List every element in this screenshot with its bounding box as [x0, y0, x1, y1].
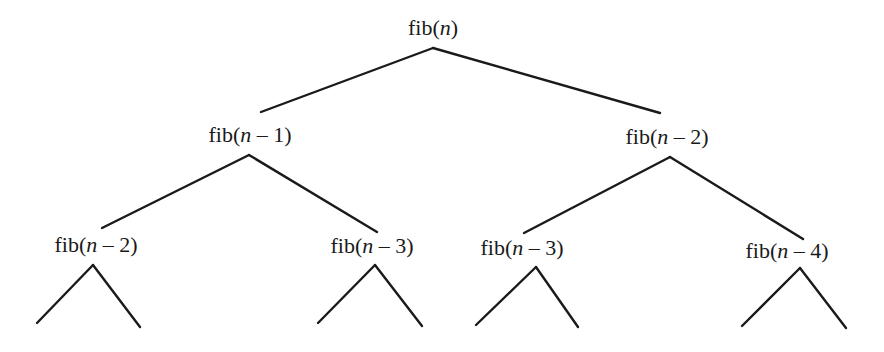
fibonacci-recursion-tree: fib(n) fib(n – 1) fib(n – 2) fib(n – 2) …: [0, 0, 884, 352]
subtree-stub-right: [375, 265, 422, 326]
node-rest: – 2): [97, 232, 137, 257]
node-fn: fib(: [54, 232, 86, 257]
node-var: n: [86, 232, 97, 257]
tree-edge: [261, 48, 433, 112]
node-rest: ): [451, 15, 458, 40]
node-fib-n-minus-3-right: fib(n – 3): [480, 237, 563, 259]
node-fn: fib(: [330, 233, 362, 258]
node-var: n: [440, 15, 451, 40]
node-fib-n-minus-2: fib(n – 2): [625, 126, 708, 148]
subtree-stub-left: [37, 265, 93, 323]
node-var: n: [777, 238, 788, 263]
subtree-stub-right: [93, 265, 140, 327]
tree-edge: [670, 157, 803, 239]
subtree-stub-right: [536, 267, 578, 327]
node-fib-n: fib(n): [408, 17, 458, 39]
node-fib-n-minus-1: fib(n – 1): [208, 124, 291, 146]
node-fib-n-minus-3-left: fib(n – 3): [330, 235, 413, 257]
node-var: n: [362, 233, 373, 258]
tree-edges: [0, 0, 884, 352]
tree-edge: [433, 48, 660, 113]
subtree-stub-right: [800, 268, 846, 328]
tree-edge: [249, 155, 377, 232]
node-var: n: [240, 122, 251, 147]
subtree-stub-left: [318, 265, 375, 323]
node-fib-n-minus-2-left: fib(n – 2): [54, 234, 137, 256]
subtree-stub-left: [742, 268, 800, 326]
tree-edge: [102, 155, 249, 228]
node-fn: fib(: [625, 124, 657, 149]
node-fib-n-minus-4: fib(n – 4): [745, 240, 828, 262]
node-var: n: [512, 235, 523, 260]
subtree-stub-left: [476, 267, 536, 325]
node-fn: fib(: [408, 15, 440, 40]
node-rest: – 2): [668, 124, 708, 149]
tree-edge: [524, 157, 670, 233]
node-fn: fib(: [480, 235, 512, 260]
node-fn: fib(: [208, 122, 240, 147]
node-rest: – 4): [788, 238, 828, 263]
node-fn: fib(: [745, 238, 777, 263]
node-var: n: [657, 124, 668, 149]
node-rest: – 3): [373, 233, 413, 258]
node-rest: – 1): [251, 122, 291, 147]
node-rest: – 3): [523, 235, 563, 260]
